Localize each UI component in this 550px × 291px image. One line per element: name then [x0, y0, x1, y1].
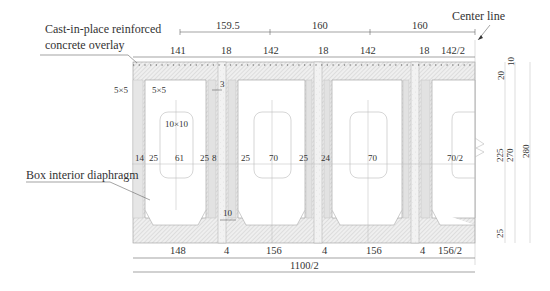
dim-156-a: 156 — [266, 245, 282, 256]
dim-148: 148 — [170, 245, 186, 256]
dim-14: 14 — [135, 153, 145, 163]
box-cell-2 — [238, 80, 305, 218]
box-girder-section — [133, 40, 484, 265]
dim-70-b: 70 — [368, 153, 378, 163]
box-cell-1 — [145, 80, 206, 218]
dim-4-a: 4 — [224, 245, 230, 256]
dim-61: 61 — [175, 153, 184, 163]
bottom-dimension-row-1: 148 4 156 4 156 4 156/2 — [133, 245, 475, 258]
top-dimension-row-2: 141 18 142 18 142 18 142/2 — [133, 45, 475, 57]
dim-25-b: 25 — [200, 153, 210, 163]
dim-18-a: 18 — [221, 45, 232, 56]
dim-18-b: 18 — [318, 45, 329, 56]
dim-159-5: 159.5 — [216, 20, 240, 31]
box-cell-3 — [332, 80, 402, 218]
dim-18-c: 18 — [419, 45, 430, 56]
dim-24: 24 — [321, 153, 331, 163]
dim-160-a: 160 — [312, 20, 328, 31]
dim-142-b: 142 — [360, 45, 376, 56]
dim-225-vertical: 225 — [495, 148, 505, 162]
dim-141: 141 — [170, 45, 186, 56]
dim-8: 8 — [212, 153, 217, 163]
dim-156-half: 156/2 — [438, 245, 462, 256]
dim-25-vertical: 25 — [495, 229, 505, 239]
overlay-label-line1: Cast-in-place reinforced — [45, 22, 161, 36]
diaphragm-label: Box interior diaphragm — [26, 168, 139, 182]
dim-25-c: 25 — [241, 153, 251, 163]
dim-70-a: 70 — [269, 153, 279, 163]
joint-3 — [411, 62, 419, 243]
chamfer-inner-label: 5×5 — [152, 85, 167, 95]
cross-section-drawing: Cast-in-place reinforced concrete overla… — [0, 0, 550, 291]
dim-10-vertical: 10 — [506, 57, 516, 67]
gap-top-label: 3 — [220, 79, 225, 89]
dim-25-a: 25 — [149, 153, 159, 163]
gap-bottom-label: 10 — [223, 208, 233, 218]
right-dimension-column: 10 20 225 270 280 25 — [495, 57, 531, 244]
dim-280-vertical: 280 — [521, 144, 531, 158]
dim-160-b: 160 — [412, 20, 428, 31]
dim-20-vertical: 20 — [496, 71, 506, 81]
top-dimension-row-1: 159.5 160 160 — [180, 20, 475, 35]
chamfer-outer-label: 5×5 — [114, 85, 129, 95]
dim-142-half: 142/2 — [441, 45, 465, 56]
center-line-label: Center line — [452, 9, 505, 23]
bottom-dimension-row-2: 1100/2 — [133, 260, 475, 272]
dim-4-c: 4 — [420, 245, 426, 256]
dim-1100-half: 1100/2 — [290, 260, 319, 271]
dim-142-a: 142 — [263, 45, 279, 56]
dim-4-b: 4 — [322, 245, 328, 256]
dim-70-half: 70/2 — [447, 153, 463, 163]
hole-chamfer-label: 10×10 — [165, 119, 189, 129]
box-cell-4-half — [432, 80, 475, 218]
overlay-label-line2: concrete overlay — [45, 38, 125, 52]
dim-156-b: 156 — [366, 245, 382, 256]
dim-25-d: 25 — [299, 153, 309, 163]
dim-270-vertical: 270 — [505, 148, 515, 162]
